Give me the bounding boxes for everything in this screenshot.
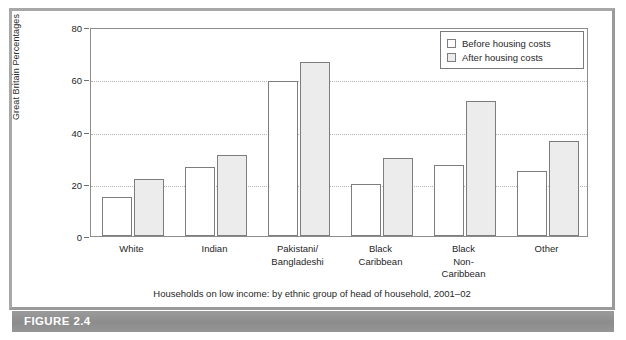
y-axis-title: Great Britain Percentages [11, 0, 21, 167]
legend-item: After housing costs [447, 50, 577, 64]
gray-square-icon [447, 53, 456, 62]
x-axis-category-label: Pakistani/ Bangladeshi [256, 243, 339, 268]
x-axis-category-label: Black Caribbean [339, 243, 422, 268]
legend-item-label: After housing costs [462, 52, 543, 63]
y-axis-tick-label: 20 [56, 179, 82, 190]
x-axis-category-label: White [90, 243, 173, 256]
bar [434, 165, 464, 236]
bar [102, 197, 132, 236]
bar [268, 81, 298, 236]
bar [185, 167, 215, 236]
bar [351, 184, 381, 236]
y-axis-tick-mark [84, 185, 89, 186]
bar-group [185, 29, 247, 236]
y-axis-tick-mark [84, 133, 89, 134]
x-axis-category-label: Black Non- Caribbean [422, 243, 505, 281]
y-axis-tick-mark [84, 80, 89, 81]
bar [549, 141, 579, 236]
bar-group [102, 29, 164, 236]
y-axis-tick-label: 0 [56, 232, 82, 243]
y-axis-tick-label: 60 [56, 75, 82, 86]
bar [517, 171, 547, 236]
figure-number-band: FIGURE 2.4 [12, 311, 614, 332]
legend-item: Before housing costs [447, 36, 577, 50]
y-axis-tick-label: 80 [56, 23, 82, 34]
y-axis-tick-label: 40 [56, 127, 82, 138]
chart-legend: Before housing costsAfter housing costs [440, 31, 584, 69]
figure-number-label: FIGURE 2.4 [24, 315, 91, 327]
bar-group [268, 29, 330, 236]
legend-item-label: Before housing costs [462, 38, 551, 49]
figure-container: Great Britain Percentages 020406080 Befo… [0, 0, 626, 340]
bar [300, 62, 330, 236]
bar-group [351, 29, 413, 236]
y-axis-tick-mark [84, 28, 89, 29]
figure-caption: Households on low income: by ethnic grou… [9, 288, 615, 299]
white-square-icon [447, 39, 456, 48]
bar [383, 158, 413, 236]
bar [217, 155, 247, 236]
bar [466, 101, 496, 236]
y-axis-tick-labels: 020406080 [52, 28, 82, 237]
x-axis-category-label: Other [505, 243, 588, 256]
y-axis-tick-mark [84, 237, 89, 238]
x-axis-category-label: Indian [173, 243, 256, 256]
bar [134, 179, 164, 236]
